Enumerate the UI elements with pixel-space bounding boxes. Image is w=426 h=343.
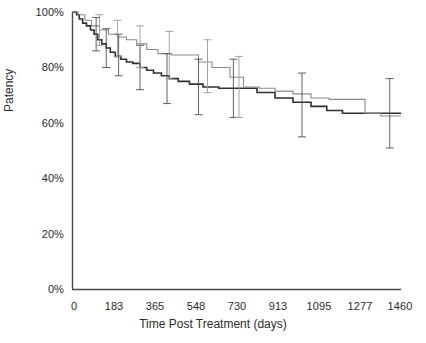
x-tick-1277: 1277 [348,300,373,312]
y-tick-100: 100% [8,6,64,18]
x-tick-913: 913 [269,300,288,312]
chart-figure: 100% 80% 60% 40% 20% 0% 0 183 365 548 73… [0,0,426,343]
error-bar [235,56,243,117]
x-tick-730: 730 [228,300,247,312]
x-tick-365: 365 [146,300,165,312]
y-tick-80: 80% [8,61,64,73]
x-tick-183: 183 [105,300,124,312]
error-bar [136,26,144,68]
y-tick-60: 60% [8,117,64,129]
y-tick-20: 20% [8,228,64,240]
x-tick-1460: 1460 [388,300,413,312]
x-tick-0: 0 [71,300,77,312]
error-bar [298,73,306,137]
y-tick-40: 40% [8,172,64,184]
x-tick-548: 548 [187,300,206,312]
series-line-group-a-dark [73,12,402,113]
error-bar [204,40,212,93]
errorbar-layer [92,15,394,148]
x-tick-1095: 1095 [307,300,332,312]
series-line-group-b-light [73,12,402,116]
x-axis-label: Time Post Treatment (days) [0,317,426,331]
error-bar [114,20,122,56]
y-tick-0: 0% [8,283,64,295]
axis-lines [72,12,401,290]
error-bar [195,59,203,115]
y-axis-label: Patency [2,69,16,112]
series-layer [73,12,402,116]
